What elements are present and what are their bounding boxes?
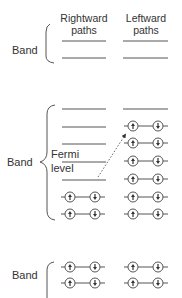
band-bottom: Band — [12, 262, 168, 298]
leftward-path-spin-pair — [124, 262, 168, 272]
leftward-path-spin-pair — [124, 121, 168, 131]
header-rightward-line1: Rightward — [60, 12, 107, 24]
rightward-path-spin-pair — [61, 192, 105, 202]
band-label-top: Band — [12, 44, 38, 56]
header-leftward-line2: paths — [133, 24, 159, 36]
band-label-bottom: Band — [12, 269, 38, 281]
leftward-path-spin-pair — [124, 156, 168, 166]
fermi-label-line2: level — [51, 162, 74, 174]
rightward-path-spin-pair — [61, 209, 105, 219]
leftward-path-spin-pair — [124, 138, 168, 148]
band-bracket-top — [46, 24, 54, 63]
fermi-label-line1: Fermi — [51, 148, 79, 160]
leftward-path-spin-pair — [124, 209, 168, 219]
rightward-path-spin-pair — [61, 278, 105, 288]
header-rightward-paths: Rightward paths — [60, 12, 107, 36]
band-label-middle: Band — [7, 156, 33, 168]
band-middle: Band Fermi level — [7, 105, 168, 220]
header-leftward-line1: Leftward — [126, 12, 166, 24]
leftward-path-spin-pair — [124, 278, 168, 288]
band-diagram: Rightward paths Leftward paths Band Band… — [0, 0, 182, 298]
leftward-path-spin-pair — [124, 192, 168, 202]
leftward-path-spin-pair — [124, 174, 168, 184]
rightward-path-spin-pair — [61, 262, 105, 272]
transition-arrow-dotted — [98, 135, 125, 177]
header-rightward-line2: paths — [71, 24, 97, 36]
band-bracket-bottom — [47, 262, 54, 298]
header-leftward-paths: Leftward paths — [126, 12, 166, 36]
